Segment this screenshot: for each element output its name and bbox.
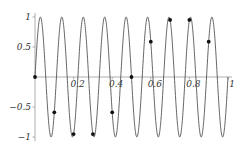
sample-point <box>188 18 192 22</box>
sample-point <box>207 40 211 44</box>
sample-point <box>168 18 172 22</box>
y-tick-label: 0.5 <box>17 42 32 52</box>
y-tick-label: 1 <box>25 12 31 22</box>
sample-point <box>110 110 114 114</box>
x-tick-label: 1 <box>229 79 235 89</box>
sample-point <box>33 75 37 79</box>
sample-point <box>72 132 76 136</box>
sample-point <box>91 132 95 136</box>
y-tick-label: −1 <box>18 132 31 142</box>
x-tick-label: 0.4 <box>109 79 124 89</box>
x-tick-label: 0.8 <box>186 79 201 89</box>
sample-point <box>52 110 56 114</box>
sampled-sine-chart: 0.20.40.60.81 −1−0.50.51 <box>0 0 241 149</box>
y-tick-label: −0.5 <box>9 102 31 112</box>
x-tick-label: 0.6 <box>148 79 163 89</box>
sample-point <box>149 40 153 44</box>
y-ticks: −1−0.50.51 <box>9 12 35 142</box>
sample-point <box>130 75 134 79</box>
